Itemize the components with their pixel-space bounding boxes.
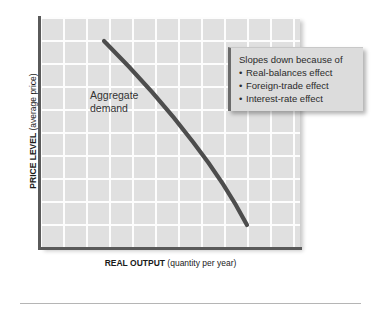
callout-box: Slopes down because of Real-balances eff… [228,47,363,111]
y-axis-title: PRICE LEVEL (average price) [28,16,38,246]
callout-item-real-balances: Real-balances effect [239,66,357,79]
x-axis-title: REAL OUTPUT (quantity per year) [41,258,300,268]
y-axis-title-regular: (average price) [28,73,38,130]
aggregate-demand-figure: Aggregate demand Slopes down because of … [0,0,381,313]
aggregate-demand-curve [104,41,247,225]
callout-heading: Slopes down because of [239,53,357,66]
bottom-divider [20,303,361,304]
y-axis-title-bold: PRICE LEVEL [28,133,38,189]
x-axis-title-regular: (quantity per year) [167,258,236,268]
x-axis-title-bold: REAL OUTPUT [105,258,165,268]
aggregate-demand-label: Aggregate demand [90,89,138,115]
aggregate-demand-label-line1: Aggregate [90,89,138,102]
callout-item-foreign-trade: Foreign-trade effect [239,79,357,92]
aggregate-demand-label-line2: demand [90,102,138,115]
callout-item-interest-rate: Interest-rate effect [239,92,357,105]
callout-list: Real-balances effect Foreign-trade effec… [239,66,357,105]
